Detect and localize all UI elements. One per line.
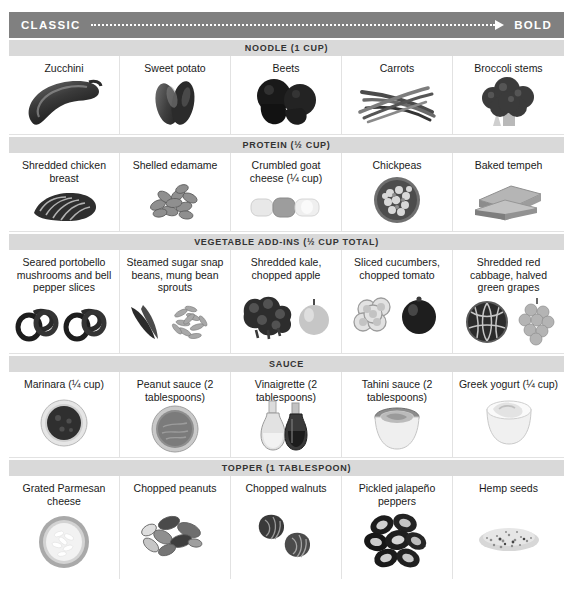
ingredient-label: Shelled edamame <box>133 159 218 172</box>
peanuts-image <box>124 495 226 576</box>
yogurt-bowl-image <box>457 391 560 454</box>
spectrum-banner-wrap: CLASSIC BOLD <box>9 0 564 38</box>
shredded-chicken-image <box>13 183 115 227</box>
dotted-arrow-right-icon <box>91 19 505 31</box>
ingredient-label: Shredded red cabbage, halved green grape… <box>457 256 560 294</box>
section-header-vegetable: VEGETABLE ADD-INS (½ CUP TOTAL) <box>9 234 564 250</box>
ingredient-cell-shredded-chicken: Shredded chicken breast <box>9 153 120 231</box>
section-header-noodle: NOODLE (1 CUP) <box>9 40 564 56</box>
ingredient-cell-broccoli: Broccoli stems <box>453 56 564 134</box>
ingredient-label: Steamed sugar snap beans, mung bean spro… <box>124 256 226 294</box>
section-row-topper: Grated Parmesan cheese <box>9 476 564 579</box>
beets-image <box>235 74 337 130</box>
cabbage-grapes-image <box>457 294 560 350</box>
ingredient-cell-cucumber-tomato: Sliced cucumbers, chopped tomato <box>342 250 453 353</box>
ingredient-cell-beets: Beets <box>231 56 342 134</box>
ingredient-label: Tahini sauce (2 tablespoons) <box>346 378 448 403</box>
section-row-protein: Shredded chicken breast Shelled edamame <box>9 153 564 232</box>
ingredient-label: Shredded kale, chopped apple <box>235 256 337 281</box>
banner-bold-label: BOLD <box>514 19 552 31</box>
ingredient-label: Crumbled goat cheese (¼ cup) <box>235 159 337 184</box>
ingredient-cell-edamame: Shelled edamame <box>120 153 231 231</box>
ingredient-cell-kale-apple: Shredded kale, chopped apple <box>231 250 342 353</box>
section-header-topper: TOPPER (1 TABLESPOON) <box>9 460 564 476</box>
sweet-potato-image <box>124 75 226 131</box>
tahini-bowl-image <box>346 403 448 453</box>
section-header-topper-label: TOPPER (1 TABLESPOON) <box>222 463 351 473</box>
ingredient-label: Peanut sauce (2 tablespoons) <box>124 378 226 403</box>
ingredient-cell-jalapenos: Pickled jalapeño peppers <box>342 476 453 579</box>
snap-beans-sprouts-image <box>124 294 226 350</box>
ingredient-cell-chickpeas: Chickpeas <box>342 153 453 231</box>
ingredient-label: Pickled jalapeño peppers <box>346 482 448 507</box>
marinara-bowl-image <box>13 391 115 454</box>
ingredient-cell-marinara: Marinara (¼ cup) <box>9 372 120 457</box>
ingredient-cell-parmesan: Grated Parmesan cheese <box>9 476 120 579</box>
spectrum-banner: CLASSIC BOLD <box>9 12 564 38</box>
ingredient-label: Chopped walnuts <box>245 482 326 495</box>
kale-apple-image <box>235 281 337 349</box>
ingredient-label: Greek yogurt (¼ cup) <box>459 378 558 391</box>
cruets-image <box>235 397 337 453</box>
section-row-noodle: Zucchini Sweet potato <box>9 56 564 135</box>
hemp-seeds-image <box>457 495 560 576</box>
ingredient-label: Shredded chicken breast <box>13 159 115 183</box>
carrots-image <box>346 75 448 131</box>
ingredient-label: Hemp seeds <box>479 482 538 495</box>
parmesan-bowl-image <box>13 507 115 575</box>
ingredient-cell-peanut-sauce: Peanut sauce (2 tablespoons) <box>120 372 231 457</box>
ingredient-label: Vinaigrette (2 tablespoons) <box>235 378 337 397</box>
walnuts-image <box>235 495 337 576</box>
ingredient-label: Broccoli stems <box>474 62 542 74</box>
zucchini-image <box>13 75 115 131</box>
ingredient-label: Sliced cucumbers, chopped tomato <box>346 256 448 281</box>
ingredient-cell-chopped-walnuts: Chopped walnuts <box>231 476 342 579</box>
ingredient-cell-vinaigrette: Vinaigrette (2 tablespoons) <box>231 372 342 457</box>
ingredient-label: Sweet potato <box>144 62 205 75</box>
ingredient-label: Beets <box>273 62 300 74</box>
chickpeas-image <box>346 172 448 228</box>
section-header-protein: PROTEIN (½ CUP) <box>9 137 564 153</box>
ingredient-cell-sweet-potato: Sweet potato <box>120 56 231 134</box>
edamame-image <box>124 172 226 228</box>
ingredient-label: Baked tempeh <box>475 159 543 172</box>
section-header-noodle-label: NOODLE (1 CUP) <box>245 43 328 53</box>
ingredient-label: Carrots <box>380 62 414 75</box>
cucumber-tomato-image <box>346 281 448 349</box>
section-header-sauce-label: SAUCE <box>269 359 304 369</box>
section-row-sauce: Marinara (¼ cup) Peanut sauce (2 tablesp… <box>9 372 564 458</box>
ingredient-cell-goat-cheese: Crumbled goat cheese (¼ cup) <box>231 153 342 231</box>
jalapenos-image <box>346 507 448 575</box>
section-header-protein-label: PROTEIN (½ CUP) <box>242 140 330 150</box>
ingredient-cell-cabbage-grapes: Shredded red cabbage, halved green grape… <box>453 250 564 353</box>
section-header-sauce: SAUCE <box>9 356 564 372</box>
ingredient-cell-tahini: Tahini sauce (2 tablespoons) <box>342 372 453 457</box>
ingredient-cell-portobello-pepper: Seared portobello mushrooms and bell pep… <box>9 250 120 353</box>
ingredient-cell-tempeh: Baked tempeh <box>453 153 564 231</box>
goat-cheese-image <box>235 184 337 227</box>
ingredient-label: Seared portobello mushrooms and bell pep… <box>13 256 115 294</box>
ingredient-cell-greek-yogurt: Greek yogurt (¼ cup) <box>453 372 564 457</box>
broccoli-image <box>457 74 560 130</box>
ingredient-label: Marinara (¼ cup) <box>24 378 104 391</box>
ingredient-label: Grated Parmesan cheese <box>13 482 115 507</box>
ingredient-label: Chickpeas <box>372 159 421 172</box>
pepper-rings-image <box>13 294 115 350</box>
section-row-vegetable: Seared portobello mushrooms and bell pep… <box>9 250 564 354</box>
ingredient-cell-chopped-peanuts: Chopped peanuts <box>120 476 231 579</box>
ingredient-label: Zucchini <box>44 62 83 75</box>
tempeh-image <box>457 172 560 228</box>
ingredient-matrix-infographic: CLASSIC BOLD NOODLE (1 CUP) Zucchini <box>0 0 573 602</box>
ingredient-cell-zucchini: Zucchini <box>9 56 120 134</box>
ingredient-cell-hemp-seeds: Hemp seeds <box>453 476 564 579</box>
peanut-bowl-image <box>124 403 226 453</box>
banner-classic-label: CLASSIC <box>21 19 81 31</box>
ingredient-cell-carrots: Carrots <box>342 56 453 134</box>
ingredient-label: Chopped peanuts <box>134 482 217 495</box>
section-header-vegetable-label: VEGETABLE ADD-INS (½ CUP TOTAL) <box>194 237 379 247</box>
ingredient-cell-snap-beans-sprouts: Steamed sugar snap beans, mung bean spro… <box>120 250 231 353</box>
